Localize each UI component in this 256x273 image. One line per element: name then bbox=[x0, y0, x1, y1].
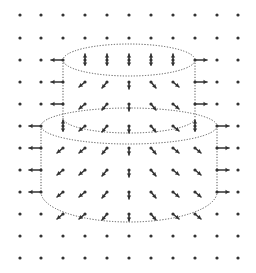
grid-dot bbox=[236, 58, 239, 61]
arrow-icon bbox=[151, 148, 156, 154]
arrow-icon bbox=[79, 126, 85, 131]
grid-dot bbox=[236, 212, 239, 215]
arrow-icon bbox=[127, 104, 131, 111]
grid-dot bbox=[215, 58, 218, 61]
arrow-icon bbox=[57, 170, 63, 175]
grid-dot bbox=[18, 146, 21, 149]
arrow-icon bbox=[57, 192, 63, 197]
grid-dot bbox=[18, 58, 21, 61]
grid-dot bbox=[61, 36, 64, 39]
arrow-icon bbox=[173, 148, 179, 153]
arrow-icon bbox=[151, 126, 156, 132]
grid-dot bbox=[171, 234, 174, 237]
arrow-icon bbox=[217, 124, 229, 128]
arrow-icon bbox=[127, 148, 131, 155]
arrow-icon bbox=[217, 146, 229, 150]
arrow-icon bbox=[102, 104, 107, 110]
grid-dot bbox=[105, 13, 108, 16]
grid-dots bbox=[18, 13, 239, 259]
arrow-icon bbox=[79, 104, 85, 109]
grid-dot bbox=[18, 190, 21, 193]
arrow-icon bbox=[173, 192, 179, 197]
grid-dot bbox=[39, 58, 42, 61]
arrow-icon bbox=[217, 168, 229, 172]
grid-dot bbox=[18, 36, 21, 39]
arrow-icon bbox=[29, 146, 41, 150]
grid-dot bbox=[236, 190, 239, 193]
arrow-icon bbox=[195, 214, 201, 219]
grid-dot bbox=[149, 256, 152, 259]
arrow-icon bbox=[195, 58, 207, 62]
grid-dot bbox=[171, 256, 174, 259]
grid-dot bbox=[18, 234, 21, 237]
grid-dot bbox=[105, 234, 108, 237]
arrow-icon bbox=[151, 170, 156, 176]
arrow-icon bbox=[79, 192, 85, 197]
grid-dot bbox=[215, 36, 218, 39]
grid-dot bbox=[83, 13, 86, 16]
arrow-icon bbox=[173, 104, 179, 109]
grid-dot bbox=[149, 36, 152, 39]
grid-dot bbox=[127, 13, 130, 16]
vector-field-diagram bbox=[0, 0, 256, 273]
arrow-icon bbox=[57, 214, 63, 219]
arrow-icon bbox=[151, 82, 156, 88]
grid-dot bbox=[18, 212, 21, 215]
grid-dot bbox=[127, 234, 130, 237]
field-arrows bbox=[29, 54, 229, 221]
grid-dot bbox=[18, 124, 21, 127]
arrow-icon bbox=[102, 214, 107, 220]
arrow-icon bbox=[173, 82, 179, 87]
grid-dot bbox=[18, 13, 21, 16]
grid-dot bbox=[149, 234, 152, 237]
grid-dot bbox=[215, 234, 218, 237]
grid-dot bbox=[18, 80, 21, 83]
arrow-icon bbox=[51, 102, 63, 106]
grid-dot bbox=[39, 256, 42, 259]
arrow-icon bbox=[173, 170, 179, 175]
arrow-icon bbox=[102, 82, 107, 88]
grid-dot bbox=[236, 168, 239, 171]
grid-dot bbox=[236, 146, 239, 149]
arrow-icon bbox=[102, 148, 107, 154]
grid-dot bbox=[215, 256, 218, 259]
grid-dot bbox=[83, 36, 86, 39]
arrow-icon bbox=[195, 148, 201, 153]
grid-dot bbox=[39, 212, 42, 215]
arrow-icon bbox=[151, 214, 156, 220]
arrow-icon bbox=[127, 170, 131, 177]
grid-dot bbox=[105, 36, 108, 39]
arrow-icon bbox=[195, 80, 207, 84]
grid-dot bbox=[149, 13, 152, 16]
grid-dot bbox=[193, 36, 196, 39]
grid-dot bbox=[193, 256, 196, 259]
grid-dot bbox=[215, 212, 218, 215]
arrow-icon bbox=[102, 170, 107, 176]
arrow-icon bbox=[57, 148, 63, 153]
arrow-icon bbox=[195, 170, 201, 175]
grid-dot bbox=[127, 256, 130, 259]
arrow-icon bbox=[79, 82, 85, 87]
grid-dot bbox=[61, 256, 64, 259]
arrow-icon bbox=[79, 170, 85, 175]
arrow-icon bbox=[217, 190, 229, 194]
grid-dot bbox=[171, 13, 174, 16]
grid-dot bbox=[18, 102, 21, 105]
grid-dot bbox=[39, 102, 42, 105]
grid-dot bbox=[39, 80, 42, 83]
grid-dot bbox=[215, 13, 218, 16]
arrow-icon bbox=[102, 192, 107, 198]
grid-dot bbox=[39, 36, 42, 39]
grid-dot bbox=[236, 36, 239, 39]
grid-dot bbox=[127, 36, 130, 39]
grid-dot bbox=[18, 168, 21, 171]
grid-dot bbox=[171, 36, 174, 39]
grid-dot bbox=[83, 256, 86, 259]
arrow-icon bbox=[29, 124, 41, 128]
grid-dot bbox=[215, 80, 218, 83]
arrow-icon bbox=[29, 168, 41, 172]
grid-dot bbox=[236, 102, 239, 105]
arrow-icon bbox=[51, 58, 63, 62]
grid-dot bbox=[83, 234, 86, 237]
diagram-canvas bbox=[0, 0, 256, 273]
